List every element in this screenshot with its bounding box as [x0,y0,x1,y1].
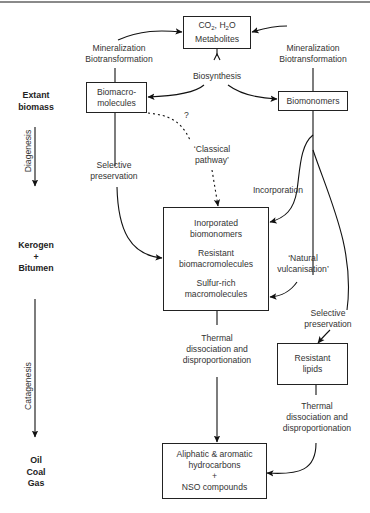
label-line: vulcanisation’ [270,264,336,275]
node-line: NSO compounds [182,482,247,493]
label-line: Mineralization [80,43,158,54]
question-mark: ? [184,110,189,120]
stage-extant-biomass: Extant biomass [14,90,58,113]
stage-line: Bitumen [12,263,60,275]
node-line: hydrocarbons [188,460,240,471]
selective-preservation-left-label: Selective preservation [82,160,146,182]
thermal-right-label: Thermal dissociation and disproportionat… [272,401,362,434]
node-line: biomonomers [190,229,242,240]
label-line: ‘Classical [182,144,242,155]
metabolites-label: Metabolites [195,34,239,45]
co2-metabolites-box: CO2, H2O Metabolites [183,16,251,49]
label-line: Mineralization [272,43,354,54]
node-line: Sulfur-rich [196,278,235,289]
stage-kerogen-bitumen: Kerogen + Bitumen [12,240,60,275]
stage-line: + [12,252,60,264]
label-line: Selective [296,308,360,319]
catagenesis-label: Catagenesis [23,358,33,414]
node-line: molecules [97,98,136,109]
node-line: Inorporated [194,218,238,229]
label-line: Selective [82,160,146,171]
label-line: disproportionation [272,423,362,434]
natural-vulcanisation-label: ‘Natural vulcanisation’ [270,253,336,275]
node-line: Biomacro- [97,87,136,98]
stage-oil-coal-gas: Oil Coal Gas [14,455,58,490]
biomonomers-box: Biomonomers [278,91,348,111]
label-line: Thermal [172,333,262,344]
node-line: macromolecules [185,289,248,300]
label-line: preservation [82,171,146,182]
node-line: Resistant [198,248,234,259]
classical-pathway-label: ‘Classical pathway’ [182,144,242,166]
stage-line: Kerogen [12,240,60,252]
stage-line: Gas [14,478,58,490]
label-line: ‘Natural [270,253,336,264]
selective-preservation-right-label: Selective preservation [296,308,360,330]
node-line: Resistant [295,353,331,364]
kerogen-composition-box: Inorporated biomonomers Resistant biomac… [163,207,269,311]
stage-line: Extant [14,90,58,102]
hydrocarbons-products-box: Aliphatic & aromatic hydrocarbons + NSO … [162,443,267,499]
mineralization-left-label: Mineralization Biotransformation [80,43,158,65]
label-line: preservation [296,319,360,330]
label-line: Biotransformation [80,54,158,65]
label-line: dissociation and [172,344,262,355]
stage-line: Oil [14,455,58,467]
node-line: + [212,471,217,482]
node-line: lipids [303,364,323,375]
mineralization-right-label: Mineralization Biotransformation [272,43,354,65]
thermal-center-label: Thermal dissociation and disproportionat… [172,333,262,366]
biosynthesis-label: Biosynthesis [184,71,250,82]
label-line: disproportionation [172,355,262,366]
label-line: dissociation and [272,412,362,423]
node-line: biomacromolecules [179,259,253,270]
resistant-lipids-box: Resistant lipids [277,343,348,385]
stage-line: biomass [14,102,58,114]
diagenesis-label: Diagenesis [23,126,33,176]
co2-h2o-label: CO2, H2O [198,20,235,34]
label-line: pathway’ [182,155,242,166]
stage-line: Coal [14,467,58,479]
label-line: Thermal [272,401,362,412]
incorporation-label: Incorporation [246,185,310,196]
node-line: Aliphatic & aromatic [177,449,253,460]
node-line: Biomonomers [286,96,339,107]
label-line: Biotransformation [272,54,354,65]
biomacromolecules-box: Biomacro- molecules [86,82,147,113]
